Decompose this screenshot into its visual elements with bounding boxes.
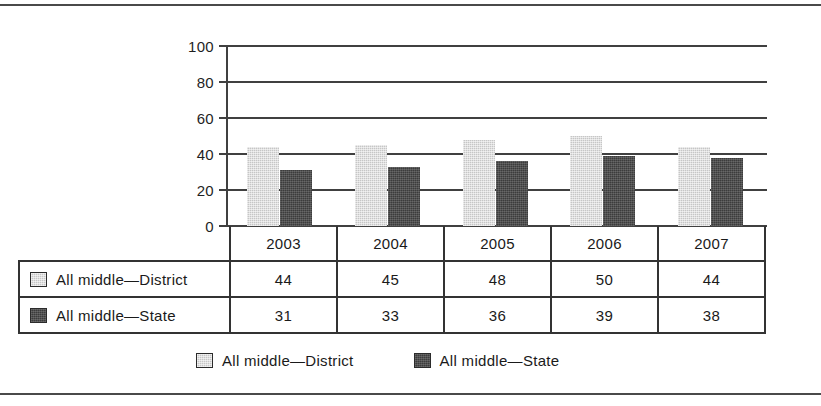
y-tick-label-60: 60 (197, 110, 214, 127)
bar-district-2003 (247, 147, 279, 226)
bar-group-2006 (551, 46, 659, 226)
bar-state-2003 (280, 170, 312, 226)
table-row-label: All middle—State (56, 307, 176, 324)
table-column-header-2004: 2004 (337, 226, 444, 261)
y-tick-40 (219, 153, 228, 155)
bar-state-2005 (496, 161, 528, 226)
table-cell: 38 (658, 297, 765, 333)
table-header-row: 20032004200520062007 (19, 226, 765, 261)
table-cell: 44 (658, 261, 765, 297)
bar-state-2006 (603, 156, 635, 226)
bar-group-2003 (228, 46, 336, 226)
top-divider-rule (0, 4, 821, 6)
table-column-header-2007: 2007 (658, 226, 765, 261)
bar-state-2007 (711, 158, 743, 226)
y-tick-label-100: 100 (188, 38, 214, 55)
table-corner-cell (19, 226, 230, 261)
table-cell: 50 (551, 261, 658, 297)
legend-item-district: All middle—District (196, 352, 354, 369)
y-tick-80 (219, 81, 228, 83)
plot-area: 100806040200 (228, 46, 767, 226)
table-row-header-district: All middle—District (19, 261, 230, 297)
legend-swatch-district-icon (30, 272, 47, 287)
table-cell: 44 (230, 261, 337, 297)
table-cell: 33 (337, 297, 444, 333)
legend-item-label: All middle—State (440, 352, 560, 369)
y-tick-label-40: 40 (197, 146, 214, 163)
table-cell: 48 (444, 261, 551, 297)
bar-group-2004 (336, 46, 444, 226)
bar-district-2006 (570, 136, 602, 226)
bar-state-2004 (388, 167, 420, 226)
y-tick-60 (219, 117, 228, 119)
bar-group-2005 (444, 46, 552, 226)
table-row: All middle—State3133363938 (19, 297, 765, 333)
bottom-divider-rule (0, 393, 821, 395)
table-column-header-2003: 2003 (230, 226, 337, 261)
y-tick-label-80: 80 (197, 74, 214, 91)
legend-swatch-state-icon (30, 308, 47, 323)
table-column-header-2005: 2005 (444, 226, 551, 261)
bar-district-2007 (678, 147, 710, 226)
y-tick-label-20: 20 (197, 182, 214, 199)
legend-swatch-district-icon (196, 353, 213, 368)
legend-item-label: All middle—District (222, 352, 354, 369)
table-row-header-state: All middle—State (19, 297, 230, 333)
table-cell: 39 (551, 297, 658, 333)
bar-district-2004 (355, 145, 387, 226)
table-cell: 31 (230, 297, 337, 333)
table-cell: 36 (444, 297, 551, 333)
chart-legend: All middle—DistrictAll middle—State (196, 352, 559, 369)
bar-group-2007 (659, 46, 767, 226)
table-cell: 45 (337, 261, 444, 297)
y-tick-100 (219, 45, 228, 47)
data-table: 20032004200520062007All middle—District4… (18, 226, 766, 334)
y-tick-20 (219, 189, 228, 191)
table-row-label: All middle—District (56, 271, 188, 288)
table-column-header-2006: 2006 (551, 226, 658, 261)
legend-swatch-state-icon (414, 353, 431, 368)
chart-figure: 100806040200 20032004200520062007All mid… (0, 0, 821, 406)
bar-district-2005 (463, 140, 495, 226)
legend-item-state: All middle—State (414, 352, 560, 369)
table-row: All middle—District4445485044 (19, 261, 765, 297)
